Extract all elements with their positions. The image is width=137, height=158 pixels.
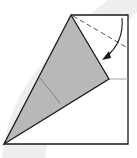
origami-diagram — [0, 0, 137, 158]
